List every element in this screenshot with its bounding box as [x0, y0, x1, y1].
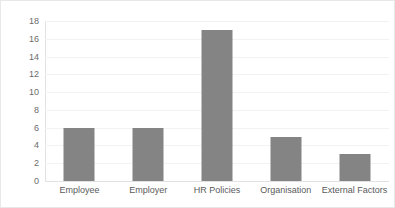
x-axis-category-label: External Factors [320, 186, 389, 195]
bar-slot [45, 21, 114, 181]
bar-chart: 024681012141618 EmployeeEmployerHR Polic… [0, 0, 395, 208]
x-axis-category-label: Employer [114, 186, 183, 195]
y-axis-tick-labels: 024681012141618 [1, 21, 39, 181]
bar[interactable] [270, 137, 301, 181]
bar[interactable] [339, 154, 370, 181]
bar[interactable] [133, 128, 164, 181]
y-axis-tick-label: 14 [0, 52, 39, 61]
y-axis-tick-label: 16 [0, 34, 39, 43]
y-axis-tick-label: 8 [0, 105, 39, 114]
gridline [45, 181, 389, 182]
bar[interactable] [64, 128, 95, 181]
bar[interactable] [201, 30, 232, 181]
y-axis-tick-label: 4 [0, 141, 39, 150]
x-axis-category-label: Employee [45, 186, 114, 195]
plot-area [45, 21, 389, 181]
x-axis-category-label: HR Policies [183, 186, 252, 195]
y-axis-tick-label: 18 [0, 17, 39, 26]
y-axis-tick-label: 2 [0, 159, 39, 168]
bar-slot [320, 21, 389, 181]
x-axis-category-label: Organisation [251, 186, 320, 195]
bar-slot [114, 21, 183, 181]
bar-slot [251, 21, 320, 181]
y-axis-tick-label: 12 [0, 70, 39, 79]
y-axis-tick-label: 0 [0, 177, 39, 186]
y-axis-tick-label: 6 [0, 123, 39, 132]
y-axis-tick-label: 10 [0, 88, 39, 97]
bar-slot [183, 21, 252, 181]
